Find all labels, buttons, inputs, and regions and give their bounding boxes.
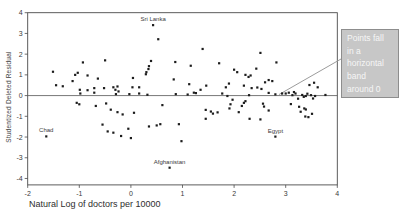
y-tick-label: -1 (16, 113, 22, 120)
data-point (303, 96, 305, 98)
data-point (82, 61, 84, 63)
labeled-data-point (169, 167, 171, 169)
data-point (225, 86, 227, 88)
data-point (294, 92, 296, 94)
data-point (259, 118, 261, 120)
data-point (112, 86, 114, 88)
data-point (205, 109, 207, 111)
data-point (285, 92, 287, 94)
data-point (71, 80, 73, 82)
data-point (93, 87, 95, 89)
y-tick-label: 1 (19, 71, 23, 78)
data-point (199, 89, 201, 91)
data-point (233, 69, 235, 71)
data-point (131, 86, 133, 88)
data-point (274, 93, 276, 95)
data-point (110, 109, 112, 111)
data-point (251, 87, 253, 89)
data-point (156, 124, 158, 126)
data-point (288, 92, 290, 94)
data-point (180, 140, 182, 142)
data-point (202, 48, 204, 50)
data-point (175, 93, 177, 95)
data-point (243, 85, 245, 87)
data-point (306, 93, 308, 95)
data-point (229, 103, 231, 105)
data-point (310, 94, 312, 96)
x-tick-label: 4 (335, 190, 339, 197)
data-point (268, 79, 270, 81)
data-point (271, 80, 273, 82)
annotation-callout-box: Points fall in a horizontal band around … (341, 29, 399, 98)
data-point (255, 68, 257, 70)
data-point (127, 128, 129, 130)
data-point (187, 93, 189, 95)
point-label: Chad (39, 127, 53, 133)
data-point (117, 90, 119, 92)
data-point (311, 113, 313, 115)
data-point (105, 102, 107, 104)
x-tick-label: -1 (76, 190, 82, 197)
data-point (101, 123, 103, 125)
data-point (247, 76, 249, 78)
y-tick-label: -3 (16, 154, 22, 161)
data-point (256, 86, 258, 88)
data-point (236, 71, 238, 73)
data-point (178, 123, 180, 125)
x-tick-label: 3 (284, 190, 288, 197)
data-point (250, 74, 252, 76)
data-point (264, 81, 266, 83)
data-point (103, 87, 105, 89)
data-point (116, 111, 118, 113)
data-point (55, 84, 57, 86)
data-point (115, 93, 117, 95)
y-tick-label: 3 (19, 30, 23, 37)
y-tick-label: -4 (16, 175, 22, 182)
data-point (244, 74, 246, 76)
data-point (86, 74, 88, 76)
data-point (305, 95, 307, 97)
data-point (147, 68, 149, 70)
data-point (76, 102, 78, 104)
x-tick-label: -2 (25, 190, 31, 197)
data-point (95, 105, 97, 107)
data-point (86, 89, 88, 91)
data-point (190, 65, 192, 67)
data-point (210, 110, 212, 112)
data-point (291, 94, 293, 96)
data-point (145, 73, 147, 75)
data-point (218, 62, 220, 64)
data-point (146, 94, 148, 96)
data-point (148, 65, 150, 67)
data-point (216, 111, 218, 113)
data-point (79, 89, 81, 91)
data-point (297, 98, 299, 100)
data-point (212, 113, 214, 115)
callout-leader-line (279, 59, 341, 95)
data-point (116, 85, 118, 87)
data-point (77, 72, 79, 74)
data-point (122, 113, 124, 115)
data-point (133, 112, 135, 114)
data-point (138, 92, 140, 94)
x-tick-label: 0 (129, 190, 133, 197)
data-point (150, 60, 152, 62)
data-point (97, 77, 99, 79)
y-tick-label: 4 (19, 9, 23, 16)
data-point (268, 92, 270, 94)
x-axis-title: Natural Log of doctors per 10000 (29, 199, 161, 209)
data-point (78, 103, 80, 105)
data-point (304, 115, 306, 117)
data-point (173, 78, 175, 80)
data-point (74, 74, 76, 76)
data-point (317, 86, 319, 88)
point-label: Egypt (268, 128, 284, 134)
data-point (112, 132, 114, 134)
data-point (138, 86, 140, 88)
x-tick-label: 2 (232, 190, 236, 197)
data-point (248, 118, 250, 120)
labeled-data-point (274, 136, 276, 138)
x-tick-label: 1 (181, 190, 185, 197)
point-label: Afghanistan (154, 159, 186, 165)
labeled-data-point (152, 24, 154, 26)
